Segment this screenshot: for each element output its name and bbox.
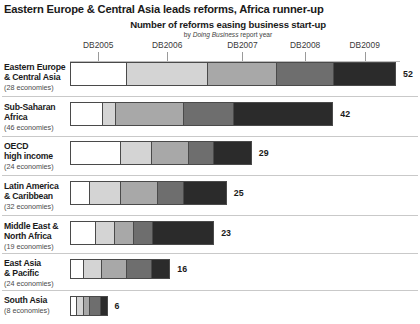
bar-segment-db2006	[102, 103, 115, 125]
bar-segment-db2008	[183, 103, 233, 125]
row-divider	[2, 96, 418, 97]
source-note-suffix: report year	[238, 31, 272, 38]
category-label-line1: Latin America	[4, 181, 59, 191]
category-economies-count: (24 economies)	[4, 279, 54, 288]
bar-total-value: 16	[177, 264, 187, 274]
stacked-bar	[70, 221, 214, 245]
bar-segment-db2009	[152, 222, 213, 244]
category-label: East Asia& Pacific	[4, 258, 41, 279]
axis-label-db2009: DB2009	[350, 40, 380, 50]
chart-title: Eastern Europe & Central Asia leads refo…	[4, 3, 324, 15]
bar-total-value: 23	[221, 228, 231, 238]
category-label-line2: & Pacific	[4, 268, 41, 278]
category-label-line1: Eastern Europe	[4, 62, 65, 72]
row-divider	[2, 215, 418, 216]
category-label-line2: & Caribbean	[4, 191, 59, 201]
bar-segment-db2008	[276, 63, 332, 85]
bar-segment-db2005	[71, 142, 120, 164]
category-label-line1: South Asia	[4, 295, 47, 305]
bar-total-value: 25	[234, 188, 244, 198]
source-note-publication: Doing Business	[193, 31, 239, 38]
bar-total-value: 52	[403, 69, 413, 79]
category-economies-count: (8 economies)	[4, 306, 50, 315]
source-note-prefix: by	[184, 31, 193, 38]
stacked-bar	[70, 259, 170, 279]
bar-total-value: 29	[259, 148, 269, 158]
bar-segment-db2005	[71, 182, 89, 204]
row-divider	[2, 290, 418, 291]
bar-segment-db2009	[233, 103, 332, 125]
category-label-line2: high income	[4, 151, 53, 161]
category-economies-count: (28 economies)	[4, 83, 54, 92]
axis-label-db2005: DB2005	[83, 40, 113, 50]
category-label-line1: East Asia	[4, 258, 41, 268]
category-economies-count: (19 economies)	[4, 242, 54, 251]
bar-segment-db2008	[188, 142, 213, 164]
row-divider	[2, 136, 418, 137]
bar-segment-db2009	[213, 142, 250, 164]
stacked-bar	[70, 141, 252, 165]
axis-label-db2007: DB2007	[227, 40, 257, 50]
axis-label-db2008: DB2008	[290, 40, 320, 50]
bar-segment-db2008	[126, 260, 151, 278]
row-divider	[2, 253, 418, 254]
stacked-bar	[70, 181, 227, 205]
category-economies-count: (46 economies)	[4, 123, 54, 132]
bar-segment-db2007	[114, 222, 133, 244]
bar-segment-db2008	[157, 182, 182, 204]
category-label: Sub-SaharanAfrica	[4, 102, 55, 123]
category-label: Eastern Europe& Central Asia	[4, 62, 65, 83]
category-label-line2: Africa	[4, 112, 55, 122]
bar-segment-db2006	[83, 260, 102, 278]
bar-segment-db2007	[207, 63, 276, 85]
bar-segment-db2006	[120, 142, 151, 164]
bar-segment-db2005	[71, 63, 126, 85]
category-label-line1: Sub-Saharan	[4, 102, 55, 112]
stacked-bar	[70, 102, 333, 126]
bar-segment-db2009	[151, 260, 170, 278]
category-label: Middle East &North Africa	[4, 221, 58, 242]
axis-label-db2006: DB2006	[152, 40, 182, 50]
bar-segment-db2008	[89, 297, 101, 315]
bar-segment-db2007	[115, 103, 183, 125]
chart-source-note: by Doing Business report year	[0, 31, 420, 38]
bar-segment-db2007	[151, 142, 188, 164]
bar-segment-db2009	[183, 182, 226, 204]
row-divider	[2, 175, 418, 176]
category-label: South Asia	[4, 295, 47, 305]
category-economies-count: (24 economies)	[4, 162, 54, 171]
stacked-bar	[70, 296, 108, 316]
bar-total-value: 6	[115, 301, 120, 311]
stacked-bar	[70, 62, 396, 86]
bar-segment-db2005	[71, 222, 95, 244]
category-label-line2: & Central Asia	[4, 72, 65, 82]
category-label: OECDhigh income	[4, 141, 53, 162]
bar-segment-db2005	[71, 103, 102, 125]
bar-segment-db2006	[126, 63, 207, 85]
category-label: Latin America& Caribbean	[4, 181, 59, 202]
bar-segment-db2006	[95, 222, 114, 244]
bar-segment-db2007	[101, 260, 126, 278]
bar-total-value: 42	[340, 109, 350, 119]
category-label-line2: North Africa	[4, 231, 58, 241]
bar-segment-db2006	[89, 182, 120, 204]
bar-segment-db2009	[100, 297, 106, 315]
chart-subtitle: Number of reforms easing business start-…	[0, 19, 420, 30]
category-economies-count: (32 economies)	[4, 202, 54, 211]
chart-container: Eastern Europe & Central Asia leads refo…	[0, 0, 420, 324]
category-label-line1: Middle East &	[4, 221, 58, 231]
bar-segment-db2005	[71, 260, 83, 278]
bar-segment-db2007	[120, 182, 157, 204]
bar-segment-db2009	[333, 63, 396, 85]
category-label-line1: OECD	[4, 141, 53, 151]
bar-segment-db2008	[133, 222, 152, 244]
